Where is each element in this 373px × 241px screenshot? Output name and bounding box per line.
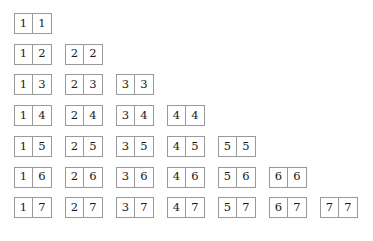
domino-half-left: 5	[219, 168, 237, 187]
domino-tile: 35	[116, 136, 154, 157]
domino-left-value: 3	[122, 109, 129, 121]
domino-right-value: 7	[89, 201, 96, 213]
domino-tile: 12	[14, 44, 52, 65]
domino-half-left: 3	[117, 106, 135, 125]
domino-right-value: 5	[140, 140, 147, 152]
domino-left-value: 1	[20, 109, 27, 121]
domino-half-right: 4	[186, 106, 204, 125]
domino-right-value: 5	[191, 140, 198, 152]
domino-left-value: 1	[20, 140, 27, 152]
domino-half-left: 4	[168, 168, 186, 187]
domino-tile: 16	[14, 167, 52, 188]
domino-left-value: 5	[224, 201, 231, 213]
domino-half-right: 4	[84, 106, 102, 125]
domino-half-right: 3	[33, 75, 51, 94]
domino-left-value: 1	[20, 17, 27, 29]
domino-tile: 15	[14, 136, 52, 157]
domino-half-left: 1	[15, 75, 33, 94]
domino-right-value: 6	[89, 171, 96, 183]
domino-half-left: 3	[117, 75, 135, 94]
domino-left-value: 4	[173, 140, 180, 152]
domino-left-value: 2	[71, 171, 78, 183]
domino-right-value: 2	[38, 48, 45, 60]
domino-right-value: 5	[242, 140, 249, 152]
domino-tile: 25	[65, 136, 103, 157]
domino-tile: 77	[320, 197, 358, 218]
domino-left-value: 5	[224, 140, 231, 152]
domino-half-right: 6	[288, 168, 306, 187]
domino-tile: 24	[65, 105, 103, 126]
domino-right-value: 4	[38, 109, 45, 121]
domino-right-value: 7	[140, 201, 147, 213]
domino-tile: 56	[218, 167, 256, 188]
domino-tile: 33	[116, 74, 154, 95]
domino-right-value: 6	[191, 171, 198, 183]
domino-half-right: 3	[135, 75, 153, 94]
domino-left-value: 2	[71, 201, 78, 213]
domino-half-right: 2	[84, 45, 102, 64]
domino-right-value: 2	[89, 48, 96, 60]
domino-half-left: 1	[15, 198, 33, 217]
domino-half-left: 2	[66, 137, 84, 156]
domino-right-value: 6	[242, 171, 249, 183]
domino-half-left: 2	[66, 45, 84, 64]
domino-left-value: 7	[326, 201, 333, 213]
domino-half-left: 6	[270, 168, 288, 187]
domino-tile: 36	[116, 167, 154, 188]
domino-tile: 27	[65, 197, 103, 218]
domino-right-value: 6	[293, 171, 300, 183]
domino-left-value: 4	[173, 201, 180, 213]
domino-left-value: 3	[122, 171, 129, 183]
domino-half-right: 7	[84, 198, 102, 217]
domino-left-value: 5	[224, 171, 231, 183]
domino-half-left: 4	[168, 198, 186, 217]
domino-right-value: 7	[38, 201, 45, 213]
domino-half-left: 1	[15, 137, 33, 156]
domino-half-right: 7	[339, 198, 357, 217]
domino-right-value: 6	[140, 171, 147, 183]
domino-tile: 44	[167, 105, 205, 126]
domino-half-left: 4	[168, 106, 186, 125]
domino-tile: 22	[65, 44, 103, 65]
domino-left-value: 3	[122, 79, 129, 91]
domino-half-left: 2	[66, 168, 84, 187]
domino-half-left: 5	[219, 137, 237, 156]
domino-right-value: 7	[242, 201, 249, 213]
domino-half-right: 6	[237, 168, 255, 187]
domino-tile: 14	[14, 105, 52, 126]
domino-half-left: 2	[66, 106, 84, 125]
domino-right-value: 3	[140, 79, 147, 91]
domino-half-right: 6	[84, 168, 102, 187]
domino-half-right: 4	[135, 106, 153, 125]
domino-left-value: 3	[122, 140, 129, 152]
domino-left-value: 6	[275, 171, 282, 183]
domino-half-right: 3	[84, 75, 102, 94]
domino-right-value: 7	[191, 201, 198, 213]
domino-half-right: 4	[33, 106, 51, 125]
domino-tile: 57	[218, 197, 256, 218]
domino-tile: 23	[65, 74, 103, 95]
domino-left-value: 3	[122, 201, 129, 213]
domino-right-value: 4	[191, 109, 198, 121]
domino-half-right: 7	[33, 198, 51, 217]
domino-right-value: 1	[38, 17, 45, 29]
domino-half-right: 5	[237, 137, 255, 156]
domino-left-value: 6	[275, 201, 282, 213]
domino-left-value: 1	[20, 48, 27, 60]
domino-left-value: 2	[71, 140, 78, 152]
domino-half-left: 1	[15, 14, 33, 33]
domino-half-left: 4	[168, 137, 186, 156]
domino-half-left: 1	[15, 45, 33, 64]
domino-half-right: 7	[135, 198, 153, 217]
domino-right-value: 5	[89, 140, 96, 152]
domino-half-right: 5	[33, 137, 51, 156]
domino-tile: 26	[65, 167, 103, 188]
domino-half-left: 3	[117, 137, 135, 156]
domino-half-right: 6	[186, 168, 204, 187]
domino-tile: 11	[14, 13, 52, 34]
domino-left-value: 1	[20, 79, 27, 91]
domino-left-value: 4	[173, 171, 180, 183]
domino-half-right: 1	[33, 14, 51, 33]
domino-left-value: 1	[20, 171, 27, 183]
domino-half-left: 5	[219, 198, 237, 217]
